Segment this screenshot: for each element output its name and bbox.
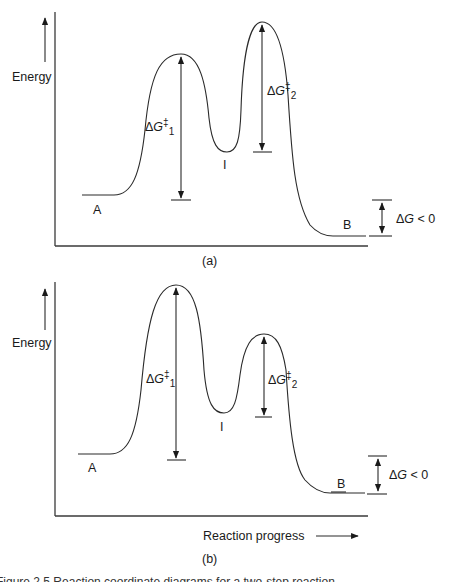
figure-caption: Figure 2.5 Reaction coordinate diagrams … bbox=[0, 572, 450, 582]
reactant-label: A bbox=[88, 461, 97, 475]
panel-a-label: (a) bbox=[202, 254, 217, 268]
panel-b-label: (b) bbox=[202, 552, 217, 566]
barrier2-label: ΔG‡2 bbox=[267, 81, 297, 101]
x-axis-label: Reaction progress bbox=[203, 529, 304, 543]
product-label: B bbox=[337, 477, 345, 491]
intermediate-label: I bbox=[220, 420, 223, 434]
barrier1-label: ΔG‡1 bbox=[145, 117, 175, 137]
y-axis-label: Energy bbox=[12, 336, 52, 350]
barrier1-label: ΔG‡1 bbox=[146, 369, 176, 389]
overall-label: ΔG < 0 bbox=[396, 212, 435, 226]
reaction-coordinate-diagrams: Energy ΔG‡1 ΔG‡2 A I B ΔG < 0 (a) bbox=[0, 0, 450, 582]
energy-profile-curve bbox=[82, 22, 366, 236]
product-label: B bbox=[343, 218, 351, 232]
y-axis-label: Energy bbox=[12, 70, 52, 84]
barrier2-label: ΔG‡2 bbox=[268, 370, 298, 390]
panel-b: Energy ΔG‡1 ΔG‡2 A I B ΔG < 0 Reaction p… bbox=[12, 282, 428, 566]
overall-label: ΔG < 0 bbox=[389, 468, 428, 482]
energy-profile-curve bbox=[78, 285, 365, 493]
reactant-label: A bbox=[93, 203, 102, 217]
intermediate-label: I bbox=[223, 158, 226, 172]
panel-a: Energy ΔG‡1 ΔG‡2 A I B ΔG < 0 (a) bbox=[12, 12, 435, 268]
